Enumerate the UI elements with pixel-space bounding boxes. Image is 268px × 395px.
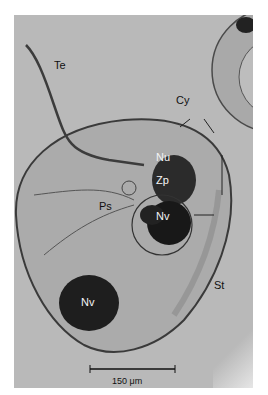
micrograph-drawing — [14, 15, 253, 388]
scale-bar-label: 150 μm — [112, 376, 142, 386]
label-nv-lower: Nv — [81, 297, 94, 308]
label-cy: Cy — [176, 95, 189, 106]
label-ps: Ps — [99, 201, 112, 212]
label-nu: Nu — [156, 152, 170, 163]
micrograph: Te Cy Nu Zp Ps Nv St Nv 150 μm — [14, 15, 253, 388]
label-nv-upper: Nv — [156, 211, 169, 222]
cell-body — [16, 119, 231, 352]
label-st: St — [214, 280, 224, 291]
label-zp: Zp — [156, 175, 169, 186]
label-te: Te — [54, 60, 66, 71]
